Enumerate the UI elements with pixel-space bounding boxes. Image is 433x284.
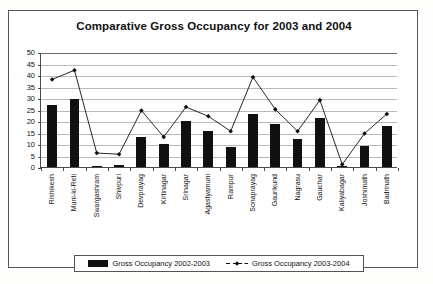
legend-item-line: Gross Occupancy 2003-2004 — [226, 259, 350, 268]
legend-label-bar: Gross Occupancy 2002-2003 — [112, 259, 210, 268]
y-tick-label: 10 — [9, 141, 35, 149]
x-tick-mark — [197, 168, 198, 171]
x-tick-label: Swargashram — [93, 174, 100, 217]
x-tick-label: Muni-ki-Reti — [70, 174, 77, 211]
x-tick-mark — [153, 168, 154, 171]
data-point-marker — [50, 77, 55, 82]
x-tick-label: Joshimath — [361, 174, 368, 206]
x-tick-mark — [353, 168, 354, 171]
x-tick-mark — [331, 168, 332, 171]
y-tick-label: 20 — [9, 118, 35, 126]
x-tick-label: Shivpuri — [115, 174, 122, 199]
x-tick-mark — [220, 168, 221, 171]
y-tick-label: 35 — [9, 84, 35, 92]
x-tick-label: Kirtinagar — [160, 174, 167, 204]
y-tick-label: 40 — [9, 72, 35, 80]
x-tick-label: Agastyamuni — [204, 174, 211, 214]
x-tick-label: Sonaprayag — [249, 174, 256, 212]
data-point-marker — [117, 152, 122, 157]
chart-frame: Comparative Gross Occupancy for 2003 and… — [8, 10, 418, 268]
x-tick-label: Nagrasu — [294, 174, 301, 200]
x-tick-label: Gaurikund — [271, 174, 278, 206]
legend-bar-swatch-icon — [88, 260, 108, 267]
legend-item-bar: Gross Occupancy 2002-2003 — [88, 259, 210, 268]
x-tick-mark — [286, 168, 287, 171]
x-tick-mark — [108, 168, 109, 171]
y-tick-label: 5 — [9, 153, 35, 161]
x-tick-label: Kaliyabagar — [338, 174, 345, 211]
y-tick-label: 15 — [9, 130, 35, 138]
x-tick-mark — [398, 168, 399, 171]
data-point-marker — [72, 68, 77, 73]
chart-legend: Gross Occupancy 2002-2003 Gross Occupanc… — [74, 255, 364, 272]
x-tick-mark — [130, 168, 131, 171]
y-tick-label: 25 — [9, 107, 35, 115]
x-tick-label: Rishikesh — [48, 174, 55, 204]
x-tick-mark — [41, 168, 42, 171]
x-tick-label: Gauchar — [316, 174, 323, 201]
x-tick-label: Srinagar — [182, 174, 189, 200]
x-tick-mark — [175, 168, 176, 171]
x-tick-mark — [309, 168, 310, 171]
x-tick-label: Badrinath — [383, 174, 390, 204]
plot-area-wrapper: 05101520253035404550 RishikeshMuni-ki-Re… — [9, 11, 419, 269]
data-point-marker — [94, 151, 99, 156]
x-tick-label: Rampur — [227, 174, 234, 199]
y-tick-label: 50 — [9, 49, 35, 57]
x-tick-mark — [242, 168, 243, 171]
x-tick-mark — [264, 168, 265, 171]
plot-area: 05101520253035404550 RishikeshMuni-ki-Re… — [40, 53, 397, 168]
legend-label-line: Gross Occupancy 2003-2004 — [252, 259, 350, 268]
line-series — [41, 53, 398, 168]
y-tick-label: 45 — [9, 61, 35, 69]
y-tick-label: 0 — [9, 164, 35, 172]
x-tick-mark — [63, 168, 64, 171]
x-tick-label: Devprayag — [137, 174, 144, 208]
x-tick-mark — [86, 168, 87, 171]
y-tick-label: 30 — [9, 95, 35, 103]
line-path — [52, 70, 387, 164]
legend-line-swatch-icon — [226, 260, 248, 267]
x-tick-mark — [376, 168, 377, 171]
